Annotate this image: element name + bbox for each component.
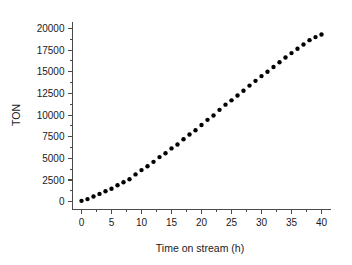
data-series-points <box>79 32 323 203</box>
data-point <box>157 155 161 159</box>
data-point <box>109 187 113 191</box>
data-point <box>277 60 281 64</box>
data-point <box>241 89 245 93</box>
y-tick-label: 15000 <box>37 66 65 77</box>
data-point <box>301 42 305 46</box>
data-point <box>223 102 227 106</box>
data-point <box>319 32 323 36</box>
data-point <box>97 192 101 196</box>
x-tick-label: 5 <box>109 217 115 228</box>
y-tick-label: 20000 <box>37 23 65 34</box>
data-point <box>187 132 191 136</box>
data-point <box>271 65 275 69</box>
data-point <box>151 160 155 164</box>
data-point <box>175 142 179 146</box>
y-tick-label: 0 <box>59 196 65 207</box>
y-tick-label: 7500 <box>42 131 65 142</box>
y-tick-label: 2500 <box>42 175 65 186</box>
y-tick-label: 5000 <box>42 153 65 164</box>
data-point <box>211 113 215 117</box>
data-point <box>199 123 203 127</box>
data-point <box>91 194 95 198</box>
data-point <box>145 164 149 168</box>
data-point <box>259 74 263 78</box>
data-point <box>103 189 107 193</box>
x-tick-label: 15 <box>166 217 178 228</box>
x-tick-label: 0 <box>79 217 85 228</box>
data-point <box>247 83 251 87</box>
data-point <box>193 128 197 132</box>
x-tick-label: 40 <box>316 217 328 228</box>
data-point <box>205 118 209 122</box>
scatter-plot: 02500500075001000012500150001750020000 0… <box>0 0 352 265</box>
data-point <box>139 168 143 172</box>
data-point <box>313 35 317 39</box>
data-point <box>121 180 125 184</box>
data-point <box>283 55 287 59</box>
data-point <box>115 183 119 187</box>
y-tick-label: 17500 <box>37 45 65 56</box>
data-point <box>307 38 311 42</box>
y-axis-title: TON <box>10 104 22 126</box>
data-point <box>163 151 167 155</box>
data-point <box>253 79 257 83</box>
data-point <box>217 108 221 112</box>
x-axis-title: Time on stream (h) <box>156 242 244 254</box>
data-point <box>79 199 83 203</box>
y-tick-label: 12500 <box>37 88 65 99</box>
y-axis: 02500500075001000012500150001750020000 <box>37 22 73 210</box>
data-point <box>181 137 185 141</box>
y-tick-label: 10000 <box>37 110 65 121</box>
chart-container: 02500500075001000012500150001750020000 0… <box>0 0 352 265</box>
data-point <box>229 98 233 102</box>
data-point <box>127 177 131 181</box>
data-point <box>295 47 299 51</box>
x-tick-label: 10 <box>136 217 148 228</box>
data-point <box>265 70 269 74</box>
data-point <box>85 197 89 201</box>
x-tick-label: 20 <box>196 217 208 228</box>
x-tick-label: 35 <box>286 217 298 228</box>
data-point <box>289 51 293 55</box>
data-point <box>133 172 137 176</box>
data-point <box>169 146 173 150</box>
data-point <box>235 93 239 97</box>
x-axis: 0510152025303540 <box>73 210 331 228</box>
x-tick-label: 30 <box>256 217 268 228</box>
x-tick-label: 25 <box>226 217 238 228</box>
